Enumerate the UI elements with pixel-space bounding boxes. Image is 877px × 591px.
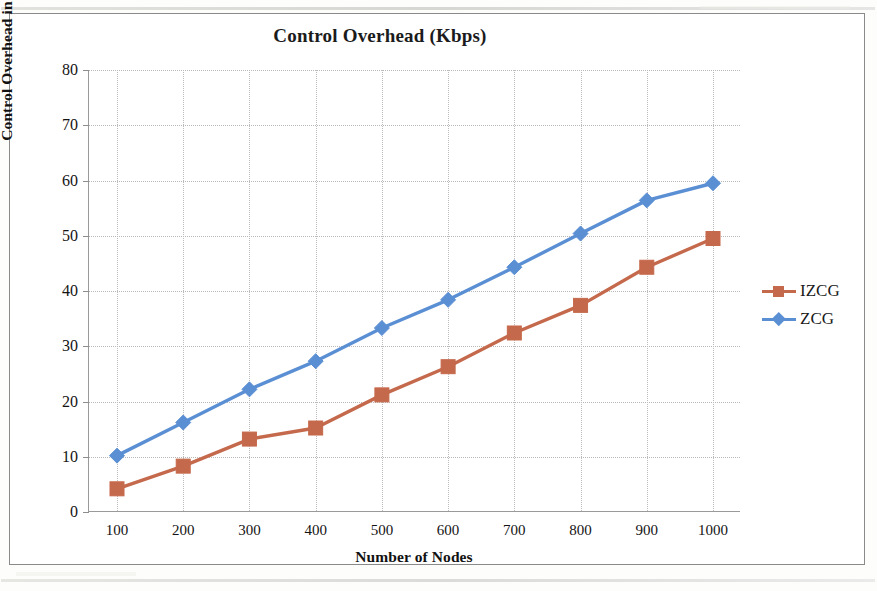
y-tick-label: 70 [62, 116, 78, 134]
x-tick-label: 300 [238, 522, 261, 539]
x-tick-label: 800 [569, 522, 592, 539]
x-tick-label: 100 [106, 522, 129, 539]
x-tick-label: 700 [503, 522, 526, 539]
x-tick-label: 900 [636, 522, 659, 539]
data-point-marker [242, 382, 257, 397]
y-tick-label: 20 [62, 393, 78, 411]
chart-figure: Control Overhead (Kbps) Control Overhead… [0, 0, 877, 591]
data-point-marker [706, 176, 721, 191]
legend-label: IZCG [800, 281, 840, 301]
legend-label: ZCG [800, 309, 834, 329]
data-point-marker [374, 321, 389, 336]
y-tick-label: 10 [62, 448, 78, 466]
series-layer [89, 70, 741, 512]
x-tick-label: 200 [172, 522, 195, 539]
data-point-marker [441, 360, 455, 374]
chart-legend: IZCGZCG [762, 277, 858, 333]
y-tick-label: 30 [62, 337, 78, 355]
chart-title: Control Overhead (Kbps) [0, 25, 760, 47]
data-point-marker [309, 421, 323, 435]
legend-swatch [762, 282, 796, 300]
y-tick-mark [83, 512, 89, 513]
data-point-marker [507, 326, 521, 340]
x-axis-title: Number of Nodes [88, 548, 740, 566]
legend-item-izcg[interactable]: IZCG [762, 277, 858, 305]
data-point-marker [176, 415, 191, 430]
square-marker-icon [773, 286, 784, 297]
plot-area: 01020304050607080 1002003004005006007008… [88, 70, 740, 512]
x-tick-label: 1000 [698, 522, 728, 539]
series-zcg [110, 176, 721, 463]
y-tick-label: 80 [62, 61, 78, 79]
legend-swatch [762, 310, 796, 328]
data-point-marker [110, 448, 125, 463]
data-point-marker [706, 232, 720, 246]
series-line [117, 183, 713, 455]
data-point-marker [507, 260, 522, 275]
series-izcg [110, 232, 720, 496]
legend-item-zcg[interactable]: ZCG [762, 305, 858, 333]
data-point-marker [574, 298, 588, 312]
y-tick-label: 0 [70, 503, 78, 521]
y-tick-label: 60 [62, 172, 78, 190]
data-point-marker [640, 260, 654, 274]
y-tick-label: 40 [62, 282, 78, 300]
data-point-marker [573, 226, 588, 241]
diamond-marker-icon [772, 312, 785, 325]
x-tick-label: 400 [304, 522, 327, 539]
data-point-marker [176, 459, 190, 473]
data-point-marker [110, 482, 124, 496]
y-axis-title: Control Overhead in s [0, 0, 16, 196]
data-point-marker [375, 388, 389, 402]
x-tick-label: 600 [437, 522, 460, 539]
data-point-marker [242, 432, 256, 446]
scan-artifact [16, 572, 136, 576]
data-point-marker [639, 193, 654, 208]
series-line [117, 239, 713, 489]
x-tick-label: 500 [371, 522, 394, 539]
data-point-marker [441, 292, 456, 307]
y-tick-label: 50 [62, 227, 78, 245]
data-point-marker [308, 354, 323, 369]
